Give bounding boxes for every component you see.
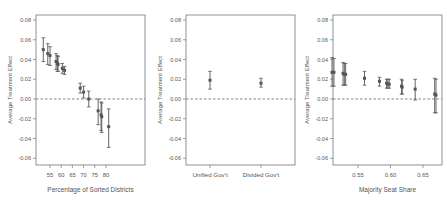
y-tick-label: 0.02 bbox=[317, 76, 328, 82]
panel-majority-seat-share: -0.06-0.04-0.020.000.020.040.060.08Avera… bbox=[297, 0, 447, 203]
plot-frame bbox=[36, 15, 145, 165]
y-tick-label: 0.06 bbox=[20, 37, 31, 43]
panel-sorted-districts: -0.06-0.04-0.020.000.020.040.060.08Avera… bbox=[0, 0, 150, 203]
data-point-with-error-bar bbox=[82, 86, 86, 98]
data-point-with-error-bar bbox=[41, 38, 45, 62]
x-axis-label: Percentage of Sorted Districts bbox=[47, 186, 134, 194]
panel-government-type: -0.06-0.04-0.020.000.020.040.060.08Avera… bbox=[150, 0, 300, 203]
x-axis-label: Majority Seat Share bbox=[359, 186, 416, 194]
y-tick-label: 0.08 bbox=[317, 17, 328, 23]
y-axis-label: Average Treatment Effect bbox=[7, 56, 13, 124]
x-tick-label: 70 bbox=[80, 172, 86, 178]
x-tick-label: 75 bbox=[92, 172, 98, 178]
y-tick-label: 0.00 bbox=[170, 96, 181, 102]
y-tick-label: -0.06 bbox=[168, 155, 181, 161]
y-tick-label: 0.04 bbox=[170, 57, 181, 63]
y-tick-label: -0.02 bbox=[315, 116, 328, 122]
x-tick-label: 80 bbox=[103, 172, 109, 178]
y-tick-label: 0.06 bbox=[317, 37, 328, 43]
x-tick-label: 0.60 bbox=[385, 172, 396, 178]
data-point-with-error-bar bbox=[259, 78, 263, 87]
y-tick-label: -0.02 bbox=[168, 116, 181, 122]
y-tick-label: -0.06 bbox=[18, 155, 31, 161]
y-tick-label: -0.02 bbox=[18, 116, 31, 122]
data-point-with-error-bar bbox=[100, 103, 104, 133]
data-point-with-error-bar bbox=[78, 83, 82, 93]
y-tick-label: -0.04 bbox=[168, 136, 181, 142]
y-tick-label: 0.08 bbox=[20, 17, 31, 23]
data-point-with-error-bar bbox=[107, 109, 111, 148]
data-point-with-error-bar bbox=[400, 80, 404, 94]
x-tick-label: Divided Gov't bbox=[243, 171, 280, 178]
x-tick-label: 65 bbox=[69, 172, 75, 178]
y-tick-label: 0.06 bbox=[170, 37, 181, 43]
y-tick-label: -0.06 bbox=[315, 155, 328, 161]
y-axis-label: Average Treatment Effect bbox=[304, 56, 310, 124]
y-tick-label: 0.04 bbox=[317, 57, 328, 63]
y-tick-label: 0.02 bbox=[20, 76, 31, 82]
x-tick-label: 0.65 bbox=[417, 172, 428, 178]
y-tick-label: 0.00 bbox=[317, 96, 328, 102]
y-tick-label: -0.04 bbox=[315, 136, 328, 142]
data-point-with-error-bar bbox=[378, 77, 382, 86]
data-point-with-error-bar bbox=[87, 91, 91, 107]
y-tick-label: 0.00 bbox=[20, 96, 31, 102]
plot-frame bbox=[333, 15, 442, 165]
y-tick-label: 0.02 bbox=[170, 76, 181, 82]
y-tick-label: -0.04 bbox=[18, 136, 31, 142]
y-tick-label: 0.08 bbox=[170, 17, 181, 23]
x-tick-label: Unified Gov't bbox=[192, 171, 228, 178]
figure: -0.06-0.04-0.020.000.020.040.060.08Avera… bbox=[0, 0, 447, 203]
data-point-with-error-bar bbox=[413, 79, 417, 100]
data-point-with-error-bar bbox=[363, 71, 367, 85]
data-point-with-error-bar bbox=[208, 71, 212, 89]
data-point-with-error-bar bbox=[48, 47, 52, 66]
y-axis-label: Average Treatment Effect bbox=[157, 56, 163, 124]
y-tick-label: 0.04 bbox=[20, 57, 31, 63]
x-tick-label: 55 bbox=[47, 172, 53, 178]
data-point-with-error-bar bbox=[96, 99, 100, 125]
x-tick-label: 60 bbox=[58, 172, 64, 178]
plot-frame bbox=[186, 15, 295, 165]
x-tick-label: 0.55 bbox=[352, 172, 363, 178]
